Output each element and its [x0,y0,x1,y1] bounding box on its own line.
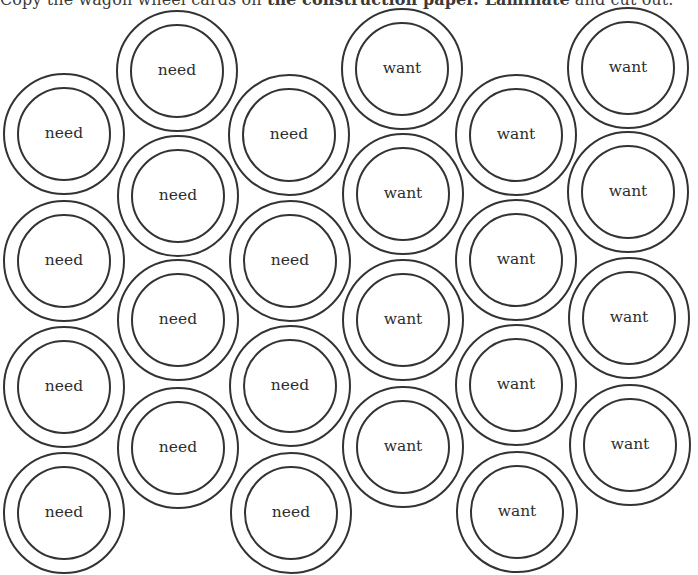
card-inner-ring: want [581,145,675,239]
wagon-wheel-card: need [3,326,125,448]
card-inner-ring: need [17,214,111,308]
card-inner-ring: want [356,400,450,494]
card-label: want [384,437,423,455]
wagon-wheel-card: need [230,452,352,574]
instructions-text: Copy the wagon wheel cards on the constr… [0,0,698,9]
card-inner-ring: need [131,149,225,243]
card-label: need [45,503,83,521]
wagon-wheel-card: want [455,324,577,446]
card-label: want [384,184,423,202]
card-inner-ring: need [17,466,111,560]
wagon-wheel-card: want [341,8,463,130]
card-label: need [271,376,309,394]
card-label: want [497,375,536,393]
card-label: want [610,308,649,326]
wagon-wheel-card: need [117,135,239,257]
card-inner-ring: need [242,88,336,182]
wagon-wheel-card: want [342,133,464,255]
card-label: need [271,251,309,269]
card-label: want [611,435,650,453]
card-inner-ring: need [131,401,225,495]
wagon-wheel-card: need [117,387,239,509]
card-inner-ring: need [131,273,225,367]
wagon-wheel-card: need [116,10,238,132]
wagon-wheel-card: want [455,199,577,321]
card-label: want [497,250,536,268]
card-label: need [45,124,83,142]
card-label: need [270,125,308,143]
card-inner-ring: want [469,88,563,182]
card-label: need [45,251,83,269]
card-inner-ring: need [243,214,337,308]
card-label: need [159,438,197,456]
wagon-wheel-card: need [229,200,351,322]
card-label: need [45,377,83,395]
card-inner-ring: need [244,466,338,560]
wagon-wheel-card: need [229,325,351,447]
card-inner-ring: want [355,22,449,116]
wagon-wheel-card: need [228,74,350,196]
card-label: need [159,186,197,204]
card-label: want [383,59,422,77]
card-label: need [158,61,196,79]
instructions-part-2: the construction paper. Laminate [267,0,570,9]
card-inner-ring: want [582,271,676,365]
card-label: need [272,503,310,521]
card-inner-ring: want [581,21,675,115]
card-label: want [609,58,648,76]
card-inner-ring: want [356,273,450,367]
wagon-wheel-card: want [456,451,578,573]
wagon-wheel-card: want [567,131,689,253]
wagon-wheel-card: need [3,452,125,574]
instructions-part-1: Copy the wagon wheel cards on [0,0,267,9]
wagon-wheel-card: want [568,257,690,379]
card-label: want [384,310,423,328]
wagon-wheel-card: want [455,74,577,196]
wagon-wheel-card: need [3,200,125,322]
card-label: want [497,125,536,143]
wagon-wheel-card: want [569,384,691,506]
card-inner-ring: want [356,147,450,241]
wagon-wheel-card: want [567,7,689,129]
card-inner-ring: want [469,213,563,307]
wagon-wheel-card: need [117,259,239,381]
card-inner-ring: need [130,24,224,118]
card-inner-ring: need [17,87,111,181]
card-inner-ring: want [469,338,563,432]
card-inner-ring: want [470,465,564,559]
wagon-wheel-card: want [342,259,464,381]
card-label: need [159,310,197,328]
card-inner-ring: want [583,398,677,492]
wagon-wheel-card: need [3,73,125,195]
card-inner-ring: need [17,340,111,434]
wagon-wheel-card: want [342,386,464,508]
card-inner-ring: need [243,339,337,433]
card-label: want [498,502,537,520]
card-label: want [609,182,648,200]
